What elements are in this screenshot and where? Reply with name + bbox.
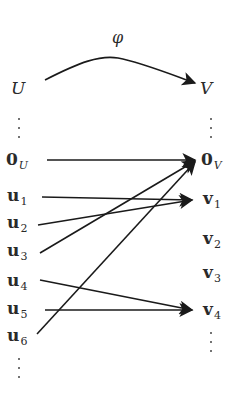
edge-u6-0V — [37, 162, 195, 334]
node-v1: v1 — [203, 190, 221, 210]
codomain-label-V: V — [200, 80, 212, 97]
arrows-layer — [0, 0, 236, 399]
node-u2: u2 — [7, 214, 27, 234]
node-v3: v3 — [203, 264, 221, 284]
domain-bottom-ellipsis — [18, 358, 20, 385]
node-u6: u6 — [7, 327, 27, 347]
node-u4: u4 — [7, 272, 27, 292]
node-v4: v4 — [203, 301, 221, 321]
node-0U: 0U — [6, 151, 28, 171]
node-u1: u1 — [7, 187, 27, 207]
phi-map-arrow — [45, 57, 195, 83]
map-label-phi: φ — [112, 30, 123, 46]
edge-u3-0V — [40, 161, 195, 253]
domain-top-ellipsis — [18, 118, 20, 145]
codomain-bottom-ellipsis — [210, 332, 212, 359]
linear-map-diagram: φ U V 0U u1 u2 u3 u4 u5 u6 0V v1 v2 v3 v… — [0, 0, 236, 399]
edge-u2-v1 — [38, 200, 192, 225]
node-u3: u3 — [7, 242, 27, 262]
node-u5: u5 — [7, 300, 27, 320]
node-0V: 0V — [201, 151, 222, 171]
domain-label-U: U — [11, 80, 25, 97]
node-v2: v2 — [203, 230, 221, 250]
codomain-top-ellipsis — [210, 118, 212, 145]
edge-u1-v1 — [42, 197, 192, 200]
